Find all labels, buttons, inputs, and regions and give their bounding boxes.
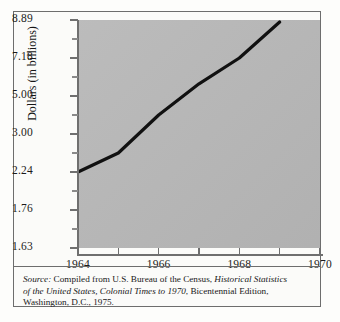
y-axis-tick: [70, 95, 78, 96]
chart-block: 8.897.185.003.002.241.761.63 19641966196…: [14, 12, 320, 267]
plot-area: [78, 20, 320, 248]
data-series-line: [78, 20, 320, 248]
x-axis-tick: [118, 248, 119, 256]
y-axis-tick: [70, 133, 78, 134]
x-axis-tick: [77, 248, 78, 256]
y-axis-tick: [70, 209, 78, 210]
y-axis-minor-tick: [72, 114, 78, 115]
y-axis-minor-tick: [72, 228, 78, 229]
x-axis-tick: [319, 248, 320, 256]
source-note: Source: Compiled from U.S. Bureau of the…: [14, 268, 320, 309]
y-axis-tick: [70, 171, 78, 172]
y-axis-label: 1.63: [12, 240, 33, 252]
source-line1-rest: Compiled from U.S. Bureau of the Census,: [51, 274, 214, 284]
y-axis-line: [77, 20, 79, 256]
source-note-line-1: Source: Compiled from U.S. Bureau of the…: [23, 274, 312, 286]
y-axis-minor-tick: [72, 76, 78, 77]
y-axis-label: 2.24: [12, 164, 33, 176]
y-axis-tick: [70, 19, 78, 20]
source-line1-italic: Historical Statistics: [214, 274, 287, 284]
y-axis-minor-tick: [72, 38, 78, 39]
x-axis-line: [77, 254, 323, 256]
source-note-line-2: of the United States, Colonial Times to …: [23, 286, 312, 298]
y-axis-minor-tick: [72, 190, 78, 191]
series-polyline: [78, 22, 280, 172]
x-axis-tick: [158, 248, 159, 256]
source-label: Source:: [23, 274, 51, 284]
x-axis-tick: [239, 248, 240, 256]
x-axis-tick: [198, 248, 199, 256]
figure-container: 8.897.185.003.002.241.761.63 19641966196…: [13, 11, 321, 307]
source-note-line-3: Washington, D.C., 1975.: [23, 297, 312, 309]
y-axis-tick: [70, 57, 78, 58]
source-line2-italic: of the United States, Colonial Times to …: [23, 286, 186, 296]
y-axis-minor-tick: [72, 152, 78, 153]
y-axis-label: 1.76: [12, 202, 33, 214]
y-axis-title: Dollars (in billions): [25, 0, 40, 154]
x-axis-tick: [279, 248, 280, 256]
source-line2-rest: , Bicentennial Edition,: [186, 286, 269, 296]
